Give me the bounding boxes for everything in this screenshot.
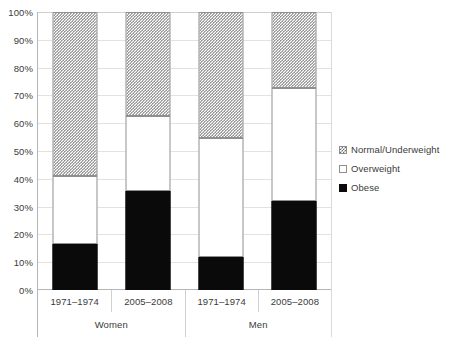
bar-segment-obese[interactable] bbox=[52, 244, 97, 290]
bar-segment-obese[interactable] bbox=[272, 201, 317, 290]
y-axis-tick-0: 0% bbox=[19, 285, 33, 296]
bar-slot-women-1971-1974 bbox=[38, 12, 111, 290]
bar-segment-overweight[interactable] bbox=[125, 116, 170, 191]
bar-segment-overweight[interactable] bbox=[199, 138, 244, 256]
category-label-men-1971-1974: 1971–1974 bbox=[185, 290, 258, 312]
y-axis-tick-30: 30% bbox=[14, 201, 33, 212]
stacked-bar-men-2005-2008[interactable] bbox=[272, 12, 317, 290]
y-axis-tick-50: 50% bbox=[14, 146, 33, 157]
bar-segment-normal-underweight[interactable] bbox=[125, 12, 170, 116]
bar-segment-normal-underweight[interactable] bbox=[52, 12, 97, 176]
bar-segment-overweight[interactable] bbox=[52, 176, 97, 244]
plot-area bbox=[37, 12, 332, 290]
category-label-men-2005-2008: 2005–2008 bbox=[258, 290, 331, 312]
category-label-women-2005-2008: 2005–2008 bbox=[111, 290, 184, 312]
y-axis-tick-90: 90% bbox=[14, 34, 33, 45]
group-axis: Women Men bbox=[37, 312, 332, 337]
y-axis-tick-80: 80% bbox=[14, 62, 33, 73]
bar-segment-overweight[interactable] bbox=[272, 88, 317, 201]
stacked-bar-chart: 100% 90% 80% 70% 60% 50% 40% 30% 20% 10%… bbox=[0, 0, 450, 339]
group-label-women: Women bbox=[38, 312, 185, 337]
checkered-square-icon bbox=[339, 146, 347, 154]
bar-slot-men-1971-1974 bbox=[185, 12, 258, 290]
legend-item-normal-underweight[interactable]: Normal/Underweight bbox=[339, 144, 439, 155]
legend-item-overweight[interactable]: Overweight bbox=[339, 163, 439, 174]
bar-segment-obese[interactable] bbox=[125, 191, 170, 290]
bar-segment-obese[interactable] bbox=[199, 257, 244, 290]
stacked-bar-women-1971-1974[interactable] bbox=[52, 12, 97, 290]
filled-square-icon bbox=[339, 184, 347, 192]
legend-item-obese[interactable]: Obese bbox=[339, 182, 439, 193]
chart-legend: Normal/Underweight Overweight Obese bbox=[339, 144, 439, 193]
y-axis-labels: 100% 90% 80% 70% 60% 50% 40% 30% 20% 10%… bbox=[0, 0, 33, 339]
stacked-bar-women-2005-2008[interactable] bbox=[125, 12, 170, 290]
legend-label-normal-underweight: Normal/Underweight bbox=[351, 144, 439, 155]
y-axis-tick-70: 70% bbox=[14, 90, 33, 101]
y-axis-tick-100: 100% bbox=[8, 7, 33, 18]
y-axis-tick-60: 60% bbox=[14, 118, 33, 129]
y-axis-tick-10: 10% bbox=[14, 257, 33, 268]
stacked-bar-men-1971-1974[interactable] bbox=[199, 12, 244, 290]
bar-slots bbox=[38, 12, 331, 290]
bar-slot-men-2005-2008 bbox=[258, 12, 331, 290]
legend-label-obese: Obese bbox=[351, 182, 380, 193]
category-label-women-1971-1974: 1971–1974 bbox=[38, 290, 111, 312]
y-axis-tick-40: 40% bbox=[14, 173, 33, 184]
legend-label-overweight: Overweight bbox=[351, 163, 400, 174]
bar-slot-women-2005-2008 bbox=[111, 12, 184, 290]
bar-segment-normal-underweight[interactable] bbox=[199, 12, 244, 138]
y-axis-tick-20: 20% bbox=[14, 229, 33, 240]
group-label-men: Men bbox=[185, 312, 332, 337]
bar-segment-normal-underweight[interactable] bbox=[272, 12, 317, 88]
empty-square-icon bbox=[339, 165, 347, 173]
category-axis: 1971–1974 2005–2008 1971–1974 2005–2008 bbox=[37, 290, 332, 312]
